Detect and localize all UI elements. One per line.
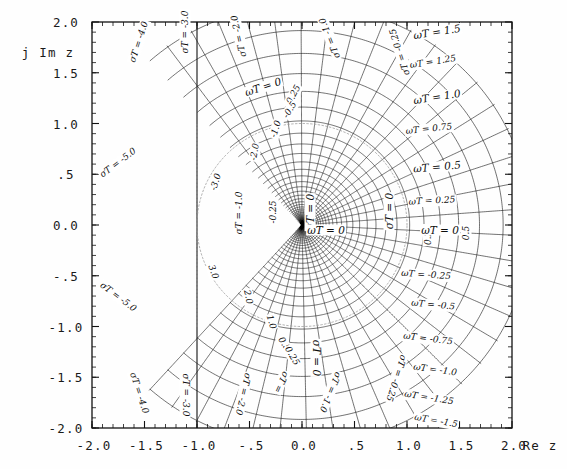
x-tick-label-3: -.5 (238, 438, 264, 453)
sigma-label-sigmaT-0-lo: σT = 0 (311, 339, 322, 377)
y-tick-label-8: -2.0 (49, 421, 84, 436)
x-tick-label-0: -2.0 (77, 438, 112, 453)
omega-label-omegaT-0-mid: ωT = 0 (306, 225, 346, 236)
sigma-label-sigmaT-m0.25-mid: -0.25 (268, 199, 279, 224)
y-tick-label-3: .5 (57, 167, 74, 182)
y-tick-label-4: 0.0 (53, 218, 79, 233)
x-tick-label-6: 1.0 (396, 438, 422, 453)
sigma-label-sigmaT-0.5-right: 0.5 (461, 225, 472, 241)
sigma-label-sigmaT-m1.0-mid: σT = -1.0 (234, 191, 245, 236)
z-plane-conformal-map (0, 0, 567, 469)
x-tick-label-5: .5 (348, 438, 365, 453)
x-tick-label-4: 0.0 (291, 438, 317, 453)
sigma-label-sigmaT-m3.0-upper: σT = -3.0 (180, 10, 191, 55)
y-tick-label-0: 2.0 (53, 15, 79, 30)
y-axis-title: j Im z (22, 45, 74, 60)
x-tick-label-7: 1.5 (448, 438, 474, 453)
x-tick-label-2: -1.0 (182, 438, 217, 453)
unit-circle-and-guides (197, 124, 407, 327)
omega-label-omegaT-0-right: ωT = 0 (420, 225, 460, 236)
y-tick-label-7: -1.5 (49, 370, 84, 385)
sigma-label-sigmaT-0-right: σT = 0 (384, 192, 395, 230)
sigma-label-sigmaT-m3.0-lower: σT = -3.0 (180, 373, 191, 418)
x-axis-title: Re z (523, 438, 558, 453)
y-tick-label-1: 1.5 (53, 65, 79, 80)
chart-canvas: 2.01.51.0.50.0-.5-1.0-1.5-2.0-2.0-1.5-1.… (0, 0, 567, 469)
y-tick-label-5: -.5 (53, 268, 79, 283)
y-tick-label-6: -1.0 (49, 319, 84, 334)
y-tick-label-2: 1.0 (53, 116, 79, 131)
x-tick-label-1: -1.5 (129, 438, 164, 453)
